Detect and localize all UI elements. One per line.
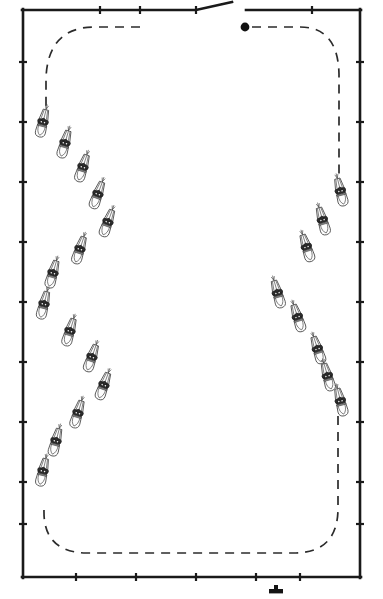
trajectory-top-left-arc	[46, 27, 140, 112]
sprite-figure	[60, 312, 80, 347]
start-point-marker	[241, 23, 250, 32]
arena-boundary	[22, 2, 361, 578]
sprite-figure	[35, 285, 54, 320]
sprite-figure	[70, 230, 91, 265]
dashed-trajectory-path	[44, 23, 339, 553]
sprite-figure	[267, 274, 287, 309]
sprite-figure	[34, 103, 53, 138]
sprite-figure	[68, 394, 88, 429]
left-sprite-column	[34, 103, 119, 487]
sprite-figure	[34, 452, 52, 487]
diagram-canvas	[0, 0, 383, 599]
sprite-figure	[97, 203, 119, 238]
trajectory-top-right-arc	[252, 27, 339, 188]
sprite-figure	[73, 148, 94, 183]
bottom-scale-glyph	[269, 585, 283, 593]
sprite-figure	[287, 298, 308, 333]
sprite-figure	[82, 338, 103, 373]
sprite-figure	[312, 201, 332, 236]
sprite-figure	[47, 422, 66, 457]
trajectory-bottom-loop	[44, 402, 338, 553]
sprite-figure	[87, 175, 109, 210]
sprite-figure	[296, 228, 317, 263]
arena-diagram-svg	[0, 0, 383, 599]
sprite-figure	[55, 124, 75, 159]
right-sprite-column	[267, 172, 349, 417]
arena-tick-marks	[19, 6, 364, 581]
sprite-figure	[331, 172, 350, 207]
sprite-figure	[43, 254, 63, 289]
sprite-figure	[93, 366, 115, 401]
arena-top-edge	[22, 2, 361, 10]
